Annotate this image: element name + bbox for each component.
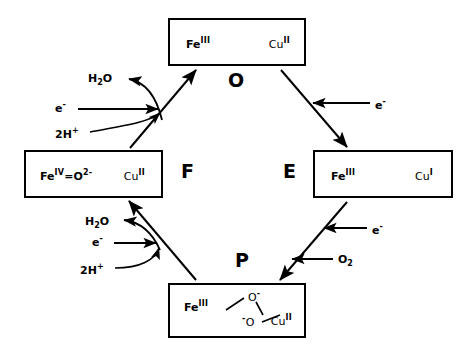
state-P-bridge-bonds: [170, 285, 308, 340]
label-water-upper-left: H2O: [88, 72, 112, 87]
catalytic-cycle-diagram: FeIII CuII FeIV=O2- CuII FeIII CuI FeIII…: [0, 0, 474, 348]
label-water-lower-left: H2O: [85, 215, 109, 230]
label-dioxygen-lower-right: O2: [338, 253, 353, 268]
state-label-O: O: [228, 69, 244, 91]
state-O-copper: CuII: [269, 36, 290, 51]
arrow-water-out-upper-left: [129, 79, 162, 120]
state-E-copper: CuI: [415, 168, 433, 183]
arrow-protons-in-upper-left: [90, 113, 160, 132]
label-electron-upper-left: e-: [55, 100, 66, 115]
label-protons-upper-left: 2H+: [55, 126, 79, 141]
edge-O-to-E: [281, 70, 347, 147]
label-protons-lower-left: 2H+: [80, 262, 104, 277]
state-box-E: FeIII CuI: [313, 150, 453, 198]
state-box-O: FeIII CuII: [168, 18, 306, 66]
label-electron-lower-left: e-: [92, 234, 103, 249]
label-electron-lower-right: e-: [372, 222, 383, 237]
arrow-protons-in-lower-left: [115, 248, 159, 268]
state-F-copper: CuII: [124, 168, 145, 183]
state-box-P: FeIII O- -O CuII: [168, 283, 306, 338]
state-label-E: E: [283, 160, 296, 182]
arrow-water-out-lower-left: [124, 220, 160, 250]
state-F-iron-oxo: FeIV=O2-: [40, 168, 92, 183]
state-E-iron: FeIII: [331, 168, 355, 183]
edge-P-to-F: [129, 201, 196, 280]
state-O-iron: FeIII: [186, 36, 210, 51]
state-box-F: FeIV=O2- CuII: [24, 150, 163, 198]
edge-E-to-P: [280, 202, 347, 280]
label-electron-upper-right: e-: [375, 97, 386, 112]
state-label-F: F: [181, 160, 194, 182]
state-label-P: P: [235, 249, 249, 271]
